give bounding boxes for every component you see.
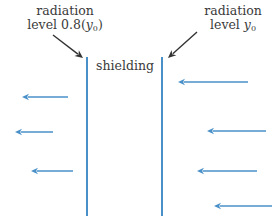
- label-left-suffix: ): [98, 17, 103, 32]
- label-shielding: shielding: [95, 59, 155, 73]
- radiation-arrow-right-icon: [178, 79, 248, 85]
- radiation-arrow-right-icon: [197, 168, 257, 174]
- left-pointer-arrow-icon: [53, 35, 83, 58]
- label-left-line2: level 0.8(y0): [10, 18, 120, 36]
- label-right-sub: 0: [251, 24, 256, 33]
- label-right-prefix: level: [210, 17, 244, 32]
- label-left-var: y: [86, 17, 93, 32]
- radiation-arrow-left-icon: [31, 168, 73, 174]
- radiation-arrow-right-icon: [207, 128, 266, 134]
- label-radiation-level-before: radiation level y0: [178, 4, 278, 36]
- label-left-prefix: level 0.8(: [27, 17, 86, 32]
- radiation-arrow-right-icon: [214, 203, 272, 209]
- radiation-arrow-left-icon: [22, 94, 68, 100]
- label-right-line2: level y0: [178, 18, 278, 36]
- label-right-var: y: [244, 17, 251, 32]
- label-radiation-level-after: radiation level 0.8(y0): [10, 4, 120, 36]
- label-right-line1: radiation: [178, 4, 278, 18]
- label-left-line1: radiation: [10, 4, 120, 18]
- radiation-arrow-left-icon: [15, 129, 53, 135]
